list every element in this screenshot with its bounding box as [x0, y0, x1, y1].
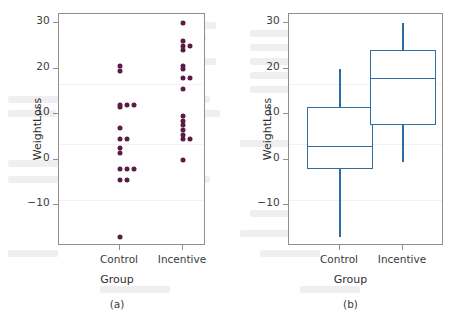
data-point — [181, 132, 186, 137]
data-point — [118, 137, 123, 142]
y-axis-b: WeightLoss 3020100−10 — [234, 13, 288, 245]
faint-bleed-line — [59, 84, 204, 85]
x-tick-mark — [402, 245, 403, 250]
data-point — [181, 123, 186, 128]
y-axis-a: WeightLoss 3020100−10 — [0, 13, 58, 245]
data-point — [181, 64, 186, 69]
data-point — [125, 102, 130, 107]
y-tick-label: 0 — [43, 151, 50, 163]
y-tick-label: 0 — [273, 151, 280, 163]
data-point — [188, 75, 193, 80]
data-point — [118, 64, 123, 69]
data-point — [132, 166, 137, 171]
median-line — [370, 78, 436, 79]
data-point — [181, 75, 186, 80]
data-point — [181, 128, 186, 133]
y-tick-label: 30 — [36, 14, 50, 26]
faint-bleed-line — [59, 144, 204, 145]
plot-area-b — [288, 13, 443, 245]
figure-weightloss-by-group: WeightLoss 3020100−10 Group (a) ControlI… — [0, 0, 467, 313]
x-tick-mark — [182, 245, 183, 250]
panel-a-dotplot: WeightLoss 3020100−10 Group (a) ControlI… — [0, 0, 234, 313]
data-point — [181, 87, 186, 92]
subcaption-b: (b) — [234, 298, 467, 310]
x-axis-label-b: Group — [234, 273, 467, 286]
y-tick-mark — [53, 204, 58, 205]
data-point — [118, 102, 123, 107]
y-tick-mark — [53, 68, 58, 69]
median-line — [307, 146, 373, 147]
data-point — [125, 137, 130, 142]
y-tick-label: 20 — [36, 60, 50, 72]
plot-area-a — [58, 13, 205, 245]
y-tick-mark — [53, 159, 58, 160]
data-point — [118, 166, 123, 171]
x-tick-label: Control — [100, 253, 138, 265]
y-tick-mark — [283, 22, 288, 23]
data-point — [188, 43, 193, 48]
y-tick-label: −10 — [27, 196, 50, 208]
data-point — [181, 118, 186, 123]
data-point — [125, 166, 130, 171]
y-tick-mark — [283, 113, 288, 114]
data-point — [188, 137, 193, 142]
data-point — [181, 114, 186, 119]
faint-bleed-line — [59, 200, 204, 201]
y-tick-label: 30 — [266, 14, 280, 26]
y-tick-mark — [283, 159, 288, 160]
data-point — [118, 125, 123, 130]
data-point — [181, 48, 186, 53]
y-tick-mark — [283, 204, 288, 205]
panel-b-boxplot: WeightLoss 3020100−10 Group (b) ControlI… — [234, 0, 467, 313]
data-point — [181, 43, 186, 48]
y-tick-label: 10 — [36, 105, 50, 117]
box-iqr — [370, 50, 436, 125]
data-point — [181, 137, 186, 142]
data-point — [118, 178, 123, 183]
data-point — [181, 39, 186, 44]
subcaption-a: (a) — [0, 298, 234, 310]
data-point — [118, 146, 123, 151]
x-tick-mark — [339, 245, 340, 250]
x-tick-mark — [119, 245, 120, 250]
data-point — [125, 178, 130, 183]
y-tick-mark — [53, 113, 58, 114]
data-point — [118, 234, 123, 239]
x-tick-label: Control — [320, 253, 358, 265]
faint-bleed-line — [289, 200, 442, 201]
x-tick-label: Incentive — [378, 253, 426, 265]
x-axis-label-a: Group — [0, 273, 234, 286]
y-tick-label: 20 — [266, 60, 280, 72]
y-tick-mark — [283, 68, 288, 69]
x-tick-label: Incentive — [158, 253, 206, 265]
data-point — [132, 102, 137, 107]
y-tick-label: −10 — [257, 196, 280, 208]
data-point — [118, 150, 123, 155]
data-point — [181, 21, 186, 26]
y-tick-mark — [53, 22, 58, 23]
data-point — [181, 157, 186, 162]
data-point — [118, 68, 123, 73]
y-tick-label: 10 — [266, 105, 280, 117]
box-iqr — [307, 107, 373, 168]
